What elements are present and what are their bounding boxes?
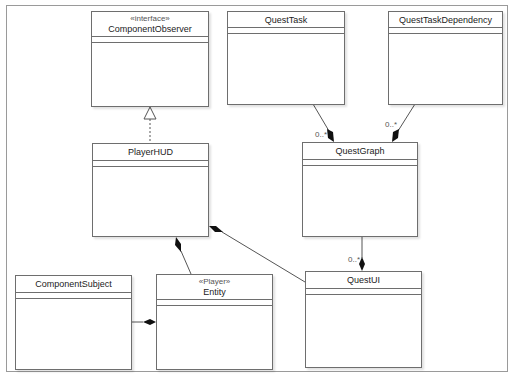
attributes-compartment (306, 289, 421, 295)
class-header: QuestGraph (303, 143, 417, 160)
composition-diamond-icon (209, 226, 223, 232)
class-name: ComponentSubject (16, 279, 131, 289)
attributes-compartment (16, 293, 131, 299)
attributes-compartment (93, 161, 208, 167)
class-quest-task-dependency[interactable]: QuestTaskDependency (388, 11, 503, 105)
class-name: QuestTask (228, 15, 344, 25)
composition-diamond-icon (392, 129, 399, 142)
class-quest-task[interactable]: QuestTask (227, 11, 345, 105)
class-header: PlayerHUD (93, 144, 208, 161)
class-quest-ui[interactable]: QuestUI (305, 271, 422, 368)
stereotype-label: «interface» (92, 14, 208, 24)
composition-diamond-icon (327, 129, 334, 142)
realization-triangle-icon (144, 107, 156, 119)
composition-diamond-icon (143, 319, 156, 325)
attributes-compartment (157, 300, 272, 306)
class-name: PlayerHUD (93, 147, 208, 157)
class-component-subject[interactable]: ComponentSubject (15, 275, 132, 370)
attributes-compartment (389, 28, 502, 34)
composition-diamond-icon (175, 237, 181, 252)
stereotype-label: «Player» (157, 277, 272, 287)
multiplicity-label: 0..* (315, 130, 327, 139)
class-name: QuestUI (306, 275, 421, 285)
class-header: QuestUI (306, 272, 421, 289)
class-name: QuestGraph (303, 146, 417, 156)
class-header: «Player» Entity (157, 275, 272, 300)
class-header: «interface» ComponentObserver (92, 12, 208, 37)
class-component-observer[interactable]: «interface» ComponentObserver (91, 11, 209, 107)
quest-dependency-link (398, 104, 415, 131)
attributes-compartment (228, 28, 344, 34)
attributes-compartment (303, 160, 417, 166)
class-name: ComponentObserver (92, 24, 208, 34)
multiplicity-label: 0..* (348, 255, 360, 264)
class-player-hud[interactable]: PlayerHUD (92, 143, 209, 237)
entity-hud-link (181, 251, 191, 274)
class-name: Entity (157, 287, 272, 297)
class-entity[interactable]: «Player» Entity (156, 274, 273, 370)
class-header: ComponentSubject (16, 276, 131, 293)
multiplicity-label: 0..* (385, 120, 397, 129)
class-name: QuestTaskDependency (389, 15, 502, 25)
quest-task-link (313, 104, 329, 131)
class-header: QuestTask (228, 12, 344, 28)
class-quest-graph[interactable]: QuestGraph (302, 142, 418, 237)
class-header: QuestTaskDependency (389, 12, 502, 28)
attributes-compartment (92, 37, 208, 43)
